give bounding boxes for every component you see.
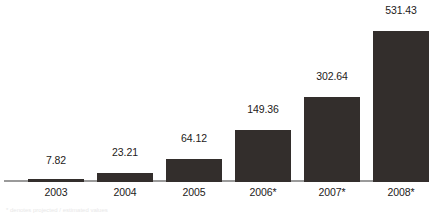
bar-4 bbox=[304, 97, 360, 182]
bar-3 bbox=[235, 130, 291, 182]
bar-group-2: 64.12 bbox=[166, 0, 222, 182]
bar-value-0: 7.82 bbox=[46, 154, 66, 166]
bar-chart: 7.82 23.21 64.12 149.36 302.64 531.43 20… bbox=[0, 0, 429, 219]
bar-value-2: 64.12 bbox=[181, 132, 207, 144]
bar-value-5: 531.43 bbox=[385, 4, 417, 16]
x-label-2003: 2003 bbox=[28, 186, 84, 198]
bar-0 bbox=[28, 179, 84, 182]
bar-value-4: 302.64 bbox=[316, 70, 348, 82]
bar-group-0: 7.82 bbox=[28, 0, 84, 182]
bar-group-3: 149.36 bbox=[235, 0, 291, 182]
bar-group-4: 302.64 bbox=[304, 0, 360, 182]
x-label-2007: 2007* bbox=[304, 186, 360, 198]
x-label-2006: 2006* bbox=[235, 186, 291, 198]
bar-5 bbox=[373, 31, 429, 182]
x-label-2008: 2008* bbox=[373, 186, 429, 198]
plot-area: 7.82 23.21 64.12 149.36 302.64 531.43 bbox=[0, 0, 429, 182]
bar-group-5: 531.43 bbox=[373, 0, 429, 182]
x-axis-labels: 2003 2004 2005 2006* 2007* 2008* bbox=[0, 186, 429, 204]
bar-2 bbox=[166, 159, 222, 182]
x-label-2004: 2004 bbox=[97, 186, 153, 198]
footnote: * denotes projected / estimated values bbox=[6, 207, 108, 213]
bar-value-3: 149.36 bbox=[247, 103, 279, 115]
bar-group-1: 23.21 bbox=[97, 0, 153, 182]
x-label-2005: 2005 bbox=[166, 186, 222, 198]
bar-value-1: 23.21 bbox=[112, 146, 138, 158]
bar-1 bbox=[97, 173, 153, 182]
